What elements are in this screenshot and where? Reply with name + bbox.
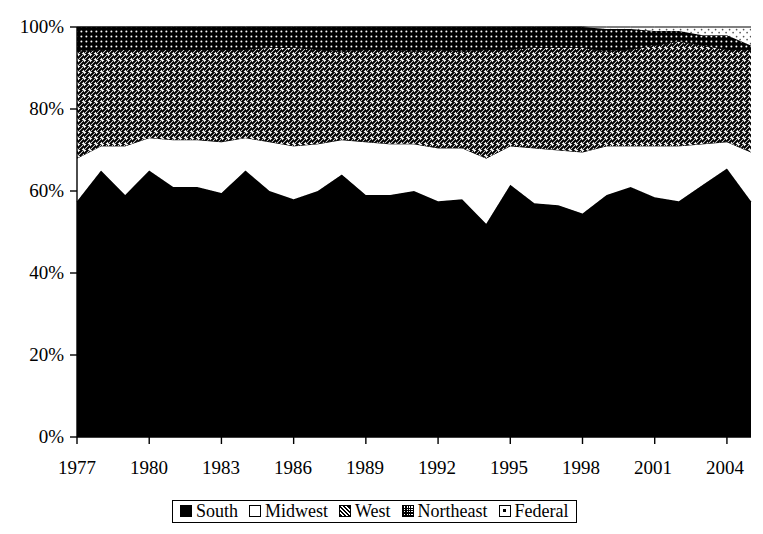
legend-swatch-west	[339, 505, 351, 517]
chart-legend: South Midwest West Northeast Federal	[172, 500, 577, 523]
legend-label-federal: Federal	[515, 502, 569, 520]
series-layer	[77, 27, 751, 437]
legend-label-midwest: Midwest	[265, 502, 328, 520]
area-series-south	[77, 168, 751, 437]
legend-item-west: West	[339, 502, 391, 520]
legend-item-midwest: Midwest	[249, 502, 328, 520]
legend-item-federal: Federal	[499, 502, 569, 520]
legend-swatch-midwest	[249, 505, 261, 517]
legend-swatch-south	[180, 505, 192, 517]
legend-item-northeast: Northeast	[402, 502, 488, 520]
plot-area	[0, 0, 763, 534]
stacked-area-chart: 100% 80% 60% 40% 20% 0% 1977 1980 1983 1…	[0, 0, 763, 534]
legend-swatch-northeast	[402, 505, 414, 517]
legend-label-west: West	[355, 502, 391, 520]
legend-label-south: South	[196, 502, 238, 520]
legend-swatch-federal	[499, 505, 511, 517]
legend-label-northeast: Northeast	[418, 502, 488, 520]
legend-item-south: South	[180, 502, 238, 520]
